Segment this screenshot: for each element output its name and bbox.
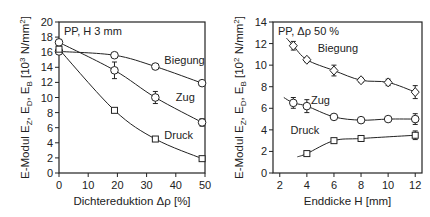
y-tick-label: 8 [261,81,267,93]
y-tick-label: 6 [47,122,53,134]
circle-marker [55,39,63,47]
square-marker [304,151,310,157]
circle-marker [198,119,206,127]
x-tick-label: 2 [277,179,283,191]
y-tick-label: 2 [47,152,53,164]
x-axis-label: Enddicke H [mm] [304,195,392,207]
y-tick-label: 0 [47,167,53,179]
y-tick-label: 0 [261,167,267,179]
square-marker [358,135,364,141]
y-tick-label: 12 [255,38,267,50]
circle-marker [290,99,298,107]
x-tick-label: 0 [56,179,62,191]
right-chart: 0246810121424681012Enddicke H [mm]E-Modu… [232,16,422,207]
y-axis-label: E-Modul EZ, ED, EB [102 N/mm2] [232,16,248,179]
circle-marker [152,63,160,71]
y-tick-label: 18 [41,31,53,43]
y-tick-label: 2 [261,145,267,157]
series-zug [284,98,419,125]
label-zug: Zug [176,91,195,103]
circle-marker [198,79,206,87]
plot-annotation: PP, H 3 mm [64,25,122,37]
square-marker [152,136,158,142]
circle-marker [411,115,419,123]
square-marker [56,46,62,52]
x-tick-label: 6 [331,179,337,191]
circle-marker [357,116,365,124]
left-chart: 0246810121416182001020304050Dichteredukt… [18,16,211,207]
circle-marker [152,94,160,102]
circle-marker [384,115,392,123]
trend-line [297,135,415,157]
x-tick-label: 50 [199,179,211,191]
y-tick-label: 12 [41,76,53,88]
circle-marker [111,67,119,75]
square-marker [412,132,418,138]
square-marker [199,156,205,162]
diamond-marker [384,78,392,87]
y-tick-label: 10 [255,59,267,71]
y-axis-label: E-Modul EZ, ED, EB [103 N/mm2] [18,16,34,179]
diamond-marker [357,76,365,85]
x-tick-label: 10 [82,179,94,191]
y-tick-label: 10 [41,92,53,104]
y-tick-label: 14 [41,61,53,73]
label-zug: Zug [311,94,330,106]
x-tick-label: 30 [140,179,152,191]
x-tick-label: 12 [409,179,421,191]
plot-annotation: PP, Δρ 50 % [278,25,339,37]
series-zug [55,39,206,127]
y-tick-label: 4 [47,137,53,149]
y-tick-label: 4 [261,124,267,136]
square-marker [111,107,117,113]
label-biegung: Biegung [164,54,204,66]
figure: 0246810121416182001020304050Dichteredukt… [0,0,430,217]
y-tick-label: 6 [261,102,267,114]
x-tick-label: 4 [304,179,310,191]
label-druck: Druck [291,124,320,136]
circle-marker [303,102,311,110]
diamond-marker [330,66,338,75]
y-tick-label: 14 [255,16,267,28]
label-druck: Druck [164,129,193,141]
label-biegung: Biegung [318,42,358,54]
x-tick-label: 40 [170,179,182,191]
diamond-marker [411,88,419,97]
x-tick-label: 8 [358,179,364,191]
y-tick-label: 8 [47,107,53,119]
x-tick-label: 20 [111,179,123,191]
x-axis-label: Dichtereduktion Δρ [%] [73,195,190,207]
y-tick-label: 20 [41,16,53,28]
circle-marker [330,113,338,121]
x-tick-label: 10 [382,179,394,191]
y-tick-label: 16 [41,46,53,58]
circle-marker [111,51,119,59]
diamond-marker [303,55,311,64]
square-marker [331,138,337,144]
trend-line [59,49,202,158]
